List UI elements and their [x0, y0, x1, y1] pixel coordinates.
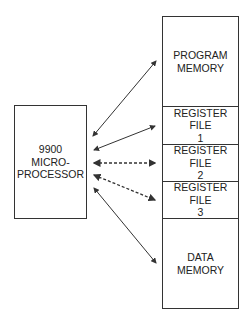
- register-file-1-line-2: FILE: [189, 119, 211, 132]
- register-file-2-line-2: FILE: [189, 157, 211, 170]
- data-memory-line-2: MEMORY: [177, 264, 224, 277]
- register-file-2-line-3: 2: [198, 169, 204, 182]
- arrow-register-file-1: [94, 126, 155, 150]
- processor-line-3: PROCESSOR: [17, 168, 84, 181]
- microprocessor-box: 9900 MICRO- PROCESSOR: [14, 105, 87, 219]
- register-file-2-line-1: REGISTER: [174, 144, 228, 157]
- register-file-2-box: REGISTER FILE 2: [162, 144, 239, 182]
- processor-line-1: 9900: [39, 143, 62, 156]
- register-file-1-box: REGISTER FILE 1: [162, 106, 239, 145]
- register-file-1-line-3: 1: [198, 132, 204, 145]
- register-file-3-line-3: 3: [198, 206, 204, 219]
- arrow-register-file-3: [94, 175, 155, 200]
- processor-line-2: MICRO-: [31, 156, 70, 169]
- register-file-3-box: REGISTER FILE 3: [162, 181, 239, 219]
- register-file-3-line-2: FILE: [189, 194, 211, 207]
- program-memory-box: PROGRAM MEMORY: [162, 16, 239, 107]
- program-memory-line-2: MEMORY: [177, 62, 224, 75]
- data-memory-box: DATA MEMORY: [162, 218, 239, 309]
- data-memory-line-1: DATA: [187, 251, 213, 264]
- register-file-3-line-1: REGISTER: [174, 181, 228, 194]
- register-file-1-line-1: REGISTER: [174, 107, 228, 120]
- program-memory-line-1: PROGRAM: [173, 49, 227, 62]
- arrow-data-memory: [94, 188, 156, 263]
- arrow-program-memory: [93, 61, 156, 136]
